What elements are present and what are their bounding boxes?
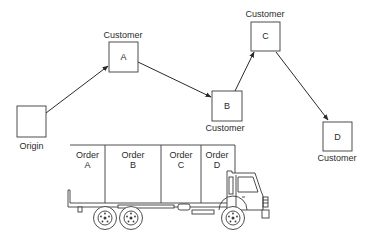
compartment-c-letter: C: [178, 160, 185, 170]
arrow-b-to-c: [235, 52, 254, 91]
arrow-a-to-b: [138, 62, 211, 97]
customer-a-letter: A: [120, 52, 126, 62]
arrow-c-to-d: [276, 52, 328, 120]
customer-b-node: B Customer: [205, 91, 244, 133]
customer-c-letter: C: [262, 31, 269, 41]
trailer-bracket: [78, 207, 82, 212]
arrow-origin-to-a: [46, 66, 108, 113]
fuel-tank: [178, 204, 190, 210]
customer-a-caption: Customer: [103, 30, 142, 40]
customer-c-caption: Customer: [245, 9, 284, 19]
customer-c-node: Customer C: [245, 9, 284, 51]
customer-d-caption: Customer: [317, 153, 356, 163]
compartment-d-letter: D: [214, 160, 221, 170]
compartment-a-title: Order: [76, 150, 99, 160]
customer-d-letter: D: [334, 132, 341, 142]
cab-grille: [263, 197, 268, 207]
delivery-truck: Order A Order B Order C Order D: [68, 145, 269, 230]
rear-wheel-2: [120, 207, 143, 230]
customer-b-letter: B: [224, 101, 230, 111]
customer-b-caption: Customer: [205, 123, 244, 133]
origin-label: Origin: [19, 141, 43, 151]
customer-a-node: Customer A: [103, 30, 142, 72]
compartment-c-title: Order: [169, 150, 192, 160]
front-bumper: [262, 210, 269, 218]
rear-wheel-1: [94, 207, 117, 230]
compartment-d-title: Order: [205, 150, 228, 160]
origin-node: Origin: [17, 106, 46, 151]
delivery-route-diagram: Origin Customer A B Customer Customer C …: [0, 0, 368, 242]
compartment-b-letter: B: [130, 160, 136, 170]
origin-box: [17, 106, 46, 137]
step: [192, 210, 214, 214]
customer-d-node: D Customer: [317, 122, 356, 163]
compartment-b-title: Order: [121, 150, 144, 160]
compartment-a-letter: A: [84, 160, 90, 170]
